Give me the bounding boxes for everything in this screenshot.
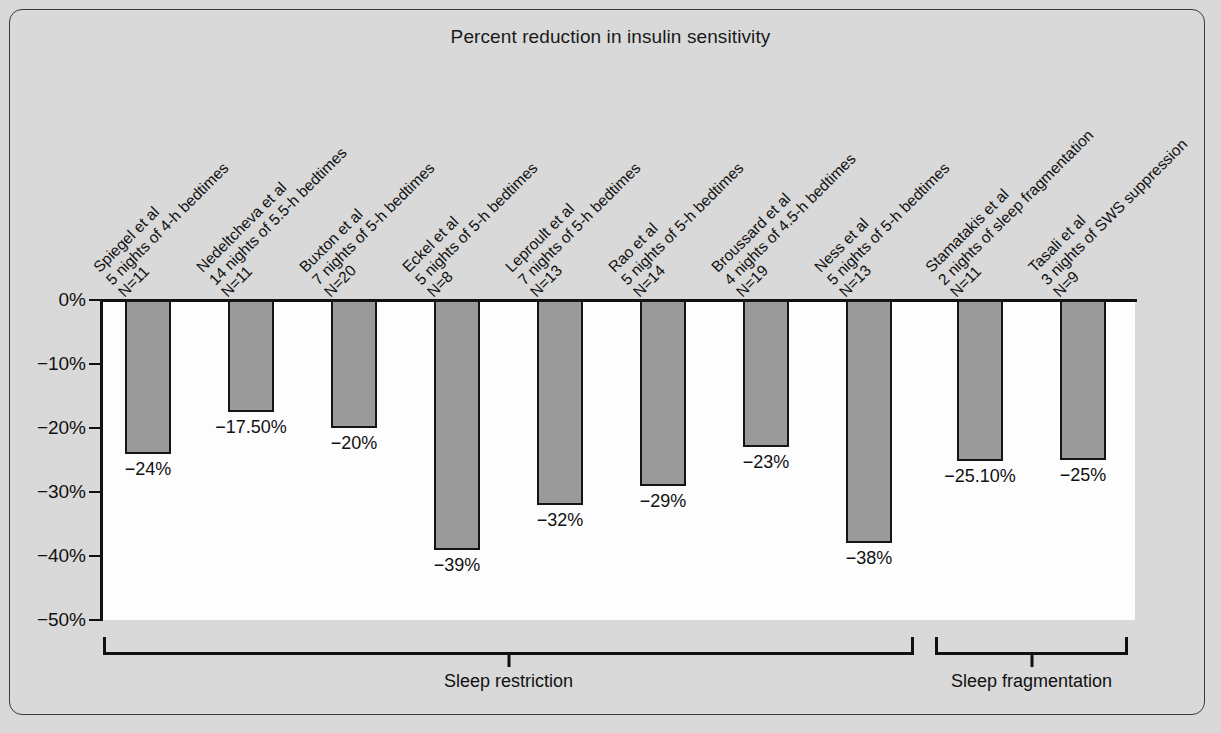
bar-value-label: −38%	[814, 548, 924, 569]
group-bracket-label: Sleep restriction	[444, 671, 573, 692]
bracket-center-tick	[1030, 653, 1033, 667]
bar-value-label: −20%	[299, 433, 409, 454]
bar-value-label: −32%	[505, 510, 615, 531]
bracket-right-tip	[911, 637, 914, 655]
bar	[846, 300, 892, 543]
y-axis-tick-label: −40%	[37, 545, 86, 567]
bar	[1060, 300, 1106, 460]
bar	[640, 300, 686, 486]
y-axis-tick-mark	[89, 363, 100, 365]
bracket-left-tip	[935, 637, 938, 655]
bar	[228, 300, 274, 412]
bar	[743, 300, 789, 447]
bar-value-label: −25.10%	[925, 466, 1035, 487]
bar	[537, 300, 583, 505]
group-bracket	[935, 637, 1128, 656]
y-axis-tick-mark	[89, 427, 100, 429]
bar	[125, 300, 171, 454]
y-axis-tick-label: −30%	[37, 481, 86, 503]
y-axis-tick-mark	[89, 299, 100, 301]
y-axis-tick-label: 0%	[59, 289, 86, 311]
y-axis-tick-mark	[89, 555, 100, 557]
bracket-left-tip	[103, 637, 106, 655]
y-axis-tick-label: −10%	[37, 353, 86, 375]
bar	[957, 300, 1003, 461]
chart-title: Percent reduction in insulin sensitivity	[0, 26, 1221, 48]
y-axis-tick-label: −20%	[37, 417, 86, 439]
bar	[434, 300, 480, 550]
bar-value-label: −29%	[608, 491, 718, 512]
y-axis-tick-mark	[89, 491, 100, 493]
y-axis-tick-mark	[89, 619, 100, 621]
figure-panel: Percent reduction in insulin sensitivity…	[0, 0, 1221, 733]
bar-value-label: −25%	[1028, 465, 1138, 486]
bar-value-label: −23%	[711, 452, 821, 473]
group-bracket-label: Sleep fragmentation	[951, 671, 1112, 692]
bracket-center-tick	[507, 653, 510, 667]
bar-value-label: −39%	[402, 555, 512, 576]
y-axis-tick-label: −50%	[37, 609, 86, 631]
bar	[331, 300, 377, 428]
bracket-right-tip	[1125, 637, 1128, 655]
group-bracket	[103, 637, 914, 656]
bar-value-label: −24%	[93, 459, 203, 480]
bar-value-label: −17.50%	[196, 417, 306, 438]
